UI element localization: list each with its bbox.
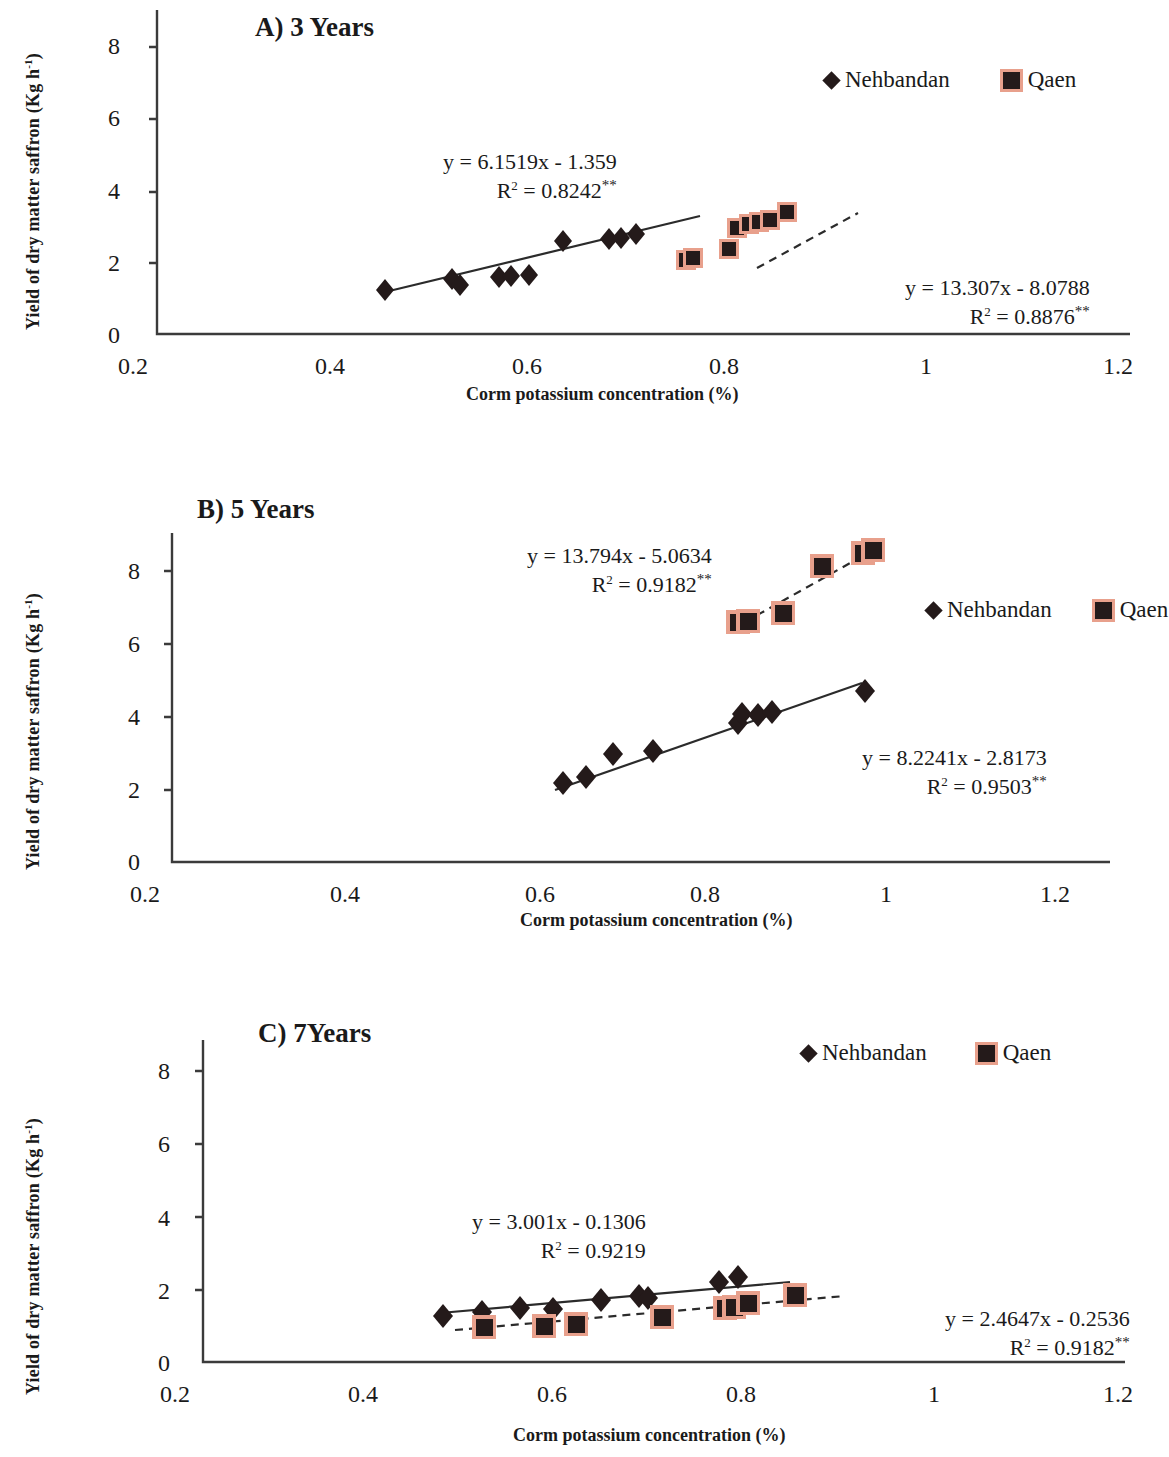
series-qaen-points xyxy=(676,202,797,270)
panel-a-3-years: Yield of dry matter saffron (Kg h-1) A) … xyxy=(0,0,1169,420)
panel-b-5-years: Yield of dry matter saffron (Kg h-1) B) … xyxy=(0,470,1169,920)
panel-c-plot-area xyxy=(0,1000,1169,1457)
panel-a-plot-area xyxy=(0,0,1169,420)
panel-b-plot-area xyxy=(0,470,1169,920)
panel-c-7-years: Yield of dry matter saffron (Kg h-1) C) … xyxy=(0,1000,1169,1457)
series-qaen-points xyxy=(726,538,885,634)
